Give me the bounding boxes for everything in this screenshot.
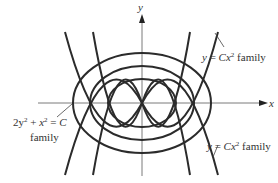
y-axis-label: y	[138, 1, 143, 13]
leader-lines	[57, 33, 224, 157]
orthogonal-trajectories-figure: y x y = Cx2 family y = Cx2 family 2y2 + …	[0, 0, 278, 183]
ellipse-family-label: 2y2 + x2 = C	[13, 116, 67, 128]
x-axis-arrow-icon	[259, 100, 268, 106]
parabola-family-label-top: y = Cx2 family	[202, 51, 266, 63]
parabola-family-label-bottom: y = Cx2 family	[207, 140, 271, 152]
y-axis-arrow-icon	[139, 14, 145, 23]
ellipse-family-label-word: family	[30, 131, 59, 143]
x-axis-label: x	[269, 97, 274, 109]
